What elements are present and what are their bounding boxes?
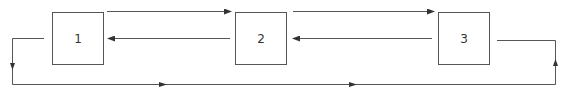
edge-loop-left: [13, 39, 45, 85]
arrow-right-icon: [159, 82, 167, 87]
node-label-3: 3: [438, 12, 490, 65]
arrow-down-icon: [10, 63, 15, 70]
arrow-right-icon: [349, 82, 357, 87]
edge-loop-right: [497, 41, 556, 85]
arrow-up-icon: [553, 59, 558, 66]
node-label-2: 2: [235, 12, 287, 65]
node-label-1: 1: [52, 12, 104, 65]
